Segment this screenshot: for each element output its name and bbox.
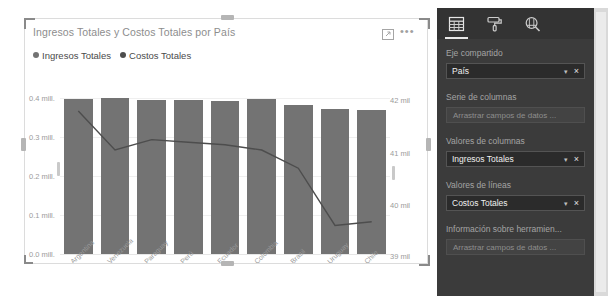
remove-field-icon[interactable]: × (574, 199, 584, 208)
legend-marker-icon (120, 52, 126, 58)
remove-field-icon[interactable]: × (574, 155, 584, 164)
well-heading-shared-axis: Eje compartido (437, 39, 594, 63)
resize-handle-top-right[interactable] (419, 18, 430, 29)
line-series-costos-totales[interactable] (78, 111, 371, 225)
resize-handle-bottom-right[interactable] (419, 255, 430, 266)
focus-mode-icon[interactable] (382, 26, 394, 37)
well-heading-column-values: Valores de columnas (437, 127, 594, 151)
legend-marker-icon (33, 52, 39, 58)
field-chip-label: Costos Totales (447, 198, 564, 208)
field-chip-ingresos-totales[interactable]: Ingresos Totales ▾ × (446, 151, 585, 167)
resize-handle-bottom-left[interactable] (24, 255, 33, 264)
well-heading-tooltips: Información sobre herramien... (437, 215, 594, 239)
well-heading-column-series: Serie de columnas (437, 83, 594, 107)
visualizations-fields-pane[interactable]: Eje compartido País ▾ × Serie de columna… (437, 8, 594, 296)
field-chip-label: Ingresos Totales (447, 154, 564, 164)
legend-item[interactable]: Ingresos Totales (33, 50, 111, 61)
chevron-down-icon[interactable]: ▾ (564, 68, 574, 75)
analytics-tab[interactable] (522, 14, 543, 34)
drop-zone-column-series[interactable]: Arrastrar campos de datos ... (446, 107, 585, 123)
chart-title: Ingresos Totales y Costos Totales por Pa… (33, 26, 235, 38)
more-options-icon[interactable]: ••• (400, 26, 418, 37)
visual-header: Ingresos Totales y Costos Totales por Pa… (24, 18, 428, 44)
chart-plot-area: 0.4 mill. 0.3 mill. 0.2 mill. 0.1 mill. … (24, 64, 428, 264)
legend-label: Ingresos Totales (42, 50, 111, 61)
format-tab[interactable] (484, 14, 505, 34)
drop-zone-placeholder: Arrastrar campos de datos ... (447, 111, 556, 120)
drop-zone-tooltips[interactable]: Arrastrar campos de datos ... (446, 239, 585, 255)
remove-field-icon[interactable]: × (574, 67, 584, 76)
drop-zone-placeholder: Arrastrar campos de datos ... (447, 243, 556, 252)
resize-handle-bottom-center[interactable] (221, 261, 234, 266)
resize-handle-top-center[interactable] (221, 15, 234, 20)
field-chip-label: País (447, 66, 564, 76)
chevron-down-icon[interactable]: ▾ (564, 200, 574, 207)
chevron-down-icon[interactable]: ▾ (564, 156, 574, 163)
field-chip-costos-totales[interactable]: Costos Totales ▾ × (446, 195, 585, 211)
chart-legend: Ingresos Totales Costos Totales (33, 48, 191, 62)
field-chip-pais[interactable]: País ▾ × (446, 63, 585, 79)
well-heading-line-values: Valores de líneas (437, 171, 594, 195)
legend-label: Costos Totales (129, 50, 191, 61)
pane-field-wells: Eje compartido País ▾ × Serie de columna… (437, 39, 594, 296)
resize-handle-left-center[interactable] (21, 138, 26, 151)
resize-handle-right-center[interactable] (426, 138, 431, 151)
fields-tab[interactable] (446, 14, 467, 34)
chart-visual[interactable]: Ingresos Totales y Costos Totales por Pa… (24, 18, 428, 264)
legend-item[interactable]: Costos Totales (120, 50, 191, 61)
pane-tab-strip (437, 8, 603, 39)
pane-right-edge-inner (596, 12, 606, 292)
resize-handle-top-left[interactable] (24, 18, 35, 29)
screenshot-root: Ingresos Totales y Costos Totales por Pa… (0, 0, 608, 303)
line-series-layer (24, 64, 428, 264)
